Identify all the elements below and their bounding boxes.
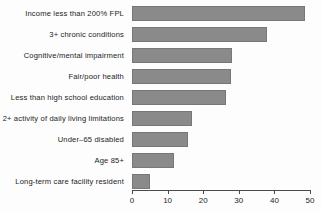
bar	[132, 90, 226, 105]
x-axis-tick	[203, 190, 204, 194]
category-label: Long-term care facility resident	[15, 174, 124, 189]
category-axis-labels: Income less than 200% FPL3+ chronic cond…	[0, 0, 128, 190]
x-axis-tick	[310, 190, 311, 194]
category-label: Less than high school education	[11, 90, 124, 105]
x-axis-tick-label: 20	[188, 196, 218, 205]
x-axis-tick	[132, 190, 133, 194]
bar	[132, 111, 192, 126]
x-axis-tick-label: 10	[153, 196, 183, 205]
bar	[132, 48, 232, 63]
x-axis-tick	[168, 190, 169, 194]
x-axis-line	[132, 190, 310, 191]
bar	[132, 69, 231, 84]
x-axis-tick	[274, 190, 275, 194]
category-label: Cognitive/mental impairment	[24, 48, 124, 63]
category-label: Income less than 200% FPL	[25, 6, 124, 21]
category-label: Fair/poor health	[68, 69, 124, 84]
bar-chart: Income less than 200% FPL3+ chronic cond…	[0, 0, 321, 213]
category-label: 3+ chronic conditions	[49, 27, 124, 42]
category-label: 2+ activity of daily living limitations	[3, 111, 124, 126]
x-axis-tick-label: 30	[224, 196, 254, 205]
category-label: Under–65 disabled	[58, 132, 124, 147]
bar	[132, 174, 150, 189]
bar	[132, 153, 174, 168]
plot-area	[132, 0, 321, 190]
x-axis-tick-label: 50	[295, 196, 321, 205]
category-label: Age 85+	[94, 153, 124, 168]
bar	[132, 6, 305, 21]
x-axis-tick-label: 40	[259, 196, 289, 205]
bar	[132, 132, 188, 147]
bar	[132, 27, 267, 42]
x-axis-tick-label: 0	[117, 196, 147, 205]
x-axis-tick	[239, 190, 240, 194]
